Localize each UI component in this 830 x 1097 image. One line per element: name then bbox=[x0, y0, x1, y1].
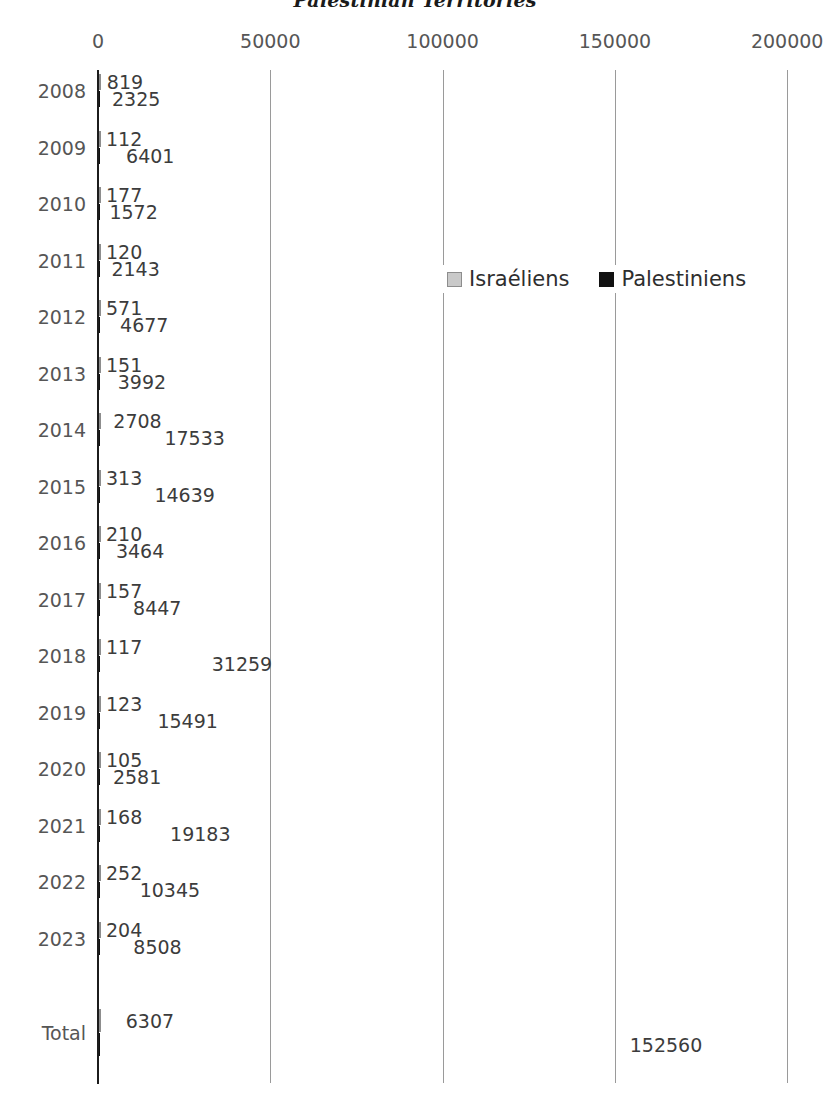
chart-row: Total6307152560 bbox=[0, 1009, 830, 1056]
bar-israeli: 117 bbox=[99, 639, 101, 655]
category-label: 2017 bbox=[0, 589, 86, 611]
bar-value-label: 8508 bbox=[128, 936, 181, 958]
chart-title: Palestinian Territories bbox=[0, 0, 830, 11]
bar-value-label: 19183 bbox=[165, 823, 230, 845]
bar-value-label: 15491 bbox=[152, 710, 217, 732]
chart-row: 2014270817533 bbox=[0, 413, 830, 446]
chart-row: 20201052581 bbox=[0, 752, 830, 785]
legend-label: Palestiniens bbox=[621, 267, 746, 291]
bar-value-label: 117 bbox=[101, 636, 142, 658]
chart-row: 20171578447 bbox=[0, 583, 830, 616]
chart-row: 202225210345 bbox=[0, 865, 830, 898]
bar-palestinian: 2143 bbox=[99, 261, 106, 277]
bar-israeli: 112 bbox=[99, 131, 101, 147]
bar-palestinian: 8447 bbox=[99, 600, 128, 616]
chart-row: 20088192325 bbox=[0, 74, 830, 107]
bar-palestinian: 15491 bbox=[99, 713, 152, 729]
category-label: 2013 bbox=[0, 363, 86, 385]
bar-israeli: 210 bbox=[99, 526, 101, 542]
bar-value-label: 10345 bbox=[135, 879, 200, 901]
bar-palestinian: 4677 bbox=[99, 317, 115, 333]
bar-israeli: 571 bbox=[99, 300, 101, 316]
bar-israeli: 157 bbox=[99, 583, 101, 599]
category-label: 2019 bbox=[0, 702, 86, 724]
bar-israeli: 252 bbox=[99, 865, 101, 881]
bar-rect bbox=[99, 430, 100, 446]
bar-palestinian: 3992 bbox=[99, 374, 113, 390]
bar-rect bbox=[99, 91, 100, 107]
bar-rect bbox=[99, 261, 100, 277]
bar-value-label: 8447 bbox=[128, 597, 181, 619]
chart-legend: IsraéliensPalestiniens bbox=[443, 265, 750, 293]
bar-rect bbox=[99, 1033, 100, 1056]
category-label: 2011 bbox=[0, 250, 86, 272]
bar-israeli: 177 bbox=[99, 187, 101, 203]
bar-israeli: 6307 bbox=[99, 1009, 121, 1032]
bar-rect bbox=[99, 600, 100, 616]
bar-rect bbox=[99, 487, 100, 503]
category-label: 2023 bbox=[0, 928, 86, 950]
bar-israeli: 313 bbox=[99, 470, 101, 486]
chart-row: 20232048508 bbox=[0, 922, 830, 955]
bar-rect bbox=[99, 413, 101, 429]
legend-swatch-palestinian-icon bbox=[599, 272, 614, 287]
bar-rect bbox=[99, 543, 100, 559]
chart-row: 202116819183 bbox=[0, 809, 830, 842]
chart-row: 201912315491 bbox=[0, 696, 830, 729]
bar-palestinian: 6401 bbox=[99, 148, 121, 164]
bar-palestinian: 152560 bbox=[99, 1033, 625, 1056]
bar-value-label: 1572 bbox=[104, 201, 157, 223]
bar-value-label: 4677 bbox=[115, 314, 168, 336]
bar-value-label: 168 bbox=[101, 806, 142, 828]
category-label: 2015 bbox=[0, 476, 86, 498]
x-tick-label: 0 bbox=[92, 30, 104, 52]
chart-row: 20131513992 bbox=[0, 357, 830, 390]
bar-israeli: 2708 bbox=[99, 413, 108, 429]
bar-value-label: 152560 bbox=[625, 1034, 703, 1056]
category-label: 2016 bbox=[0, 532, 86, 554]
bar-rect bbox=[99, 148, 100, 164]
bar-rect bbox=[99, 939, 100, 955]
legend-label: Israéliens bbox=[469, 267, 569, 291]
bar-value-label: 2143 bbox=[106, 258, 159, 280]
legend-item-palestinian[interactable]: Palestiniens bbox=[599, 267, 746, 291]
bar-palestinian: 31259 bbox=[99, 656, 207, 672]
bar-value-label: 2708 bbox=[108, 410, 161, 432]
bar-rect bbox=[99, 374, 100, 390]
bar-rect bbox=[99, 74, 101, 90]
bar-israeli: 204 bbox=[99, 922, 101, 938]
chart-row: 20091126401 bbox=[0, 131, 830, 164]
bar-israeli: 168 bbox=[99, 809, 101, 825]
bar-palestinian: 8508 bbox=[99, 939, 128, 955]
bar-palestinian: 19183 bbox=[99, 826, 165, 842]
chart-row: 20125714677 bbox=[0, 300, 830, 333]
bar-rect bbox=[99, 713, 100, 729]
legend-item-israeli[interactable]: Israéliens bbox=[447, 267, 569, 291]
bar-value-label: 3992 bbox=[113, 371, 166, 393]
bar-chart: Palestinian Territories 0500001000001500… bbox=[0, 0, 830, 1097]
bar-israeli: 105 bbox=[99, 752, 101, 768]
bar-value-label: 31259 bbox=[207, 653, 272, 675]
bar-rect bbox=[99, 769, 100, 785]
category-label: 2012 bbox=[0, 306, 86, 328]
bar-rect bbox=[99, 826, 100, 842]
bar-palestinian: 3464 bbox=[99, 543, 111, 559]
x-tick-label: 200000 bbox=[751, 30, 824, 52]
bar-rect bbox=[99, 317, 100, 333]
category-label: Total bbox=[0, 1022, 86, 1044]
bar-value-label: 313 bbox=[101, 467, 142, 489]
bar-palestinian: 2581 bbox=[99, 769, 108, 785]
bar-rect bbox=[99, 204, 100, 220]
chart-row: 201811731259 bbox=[0, 639, 830, 672]
bar-value-label: 2581 bbox=[108, 766, 161, 788]
bar-palestinian: 17533 bbox=[99, 430, 159, 446]
bar-israeli: 120 bbox=[99, 244, 101, 260]
bar-value-label: 123 bbox=[101, 693, 142, 715]
category-label: 2009 bbox=[0, 137, 86, 159]
category-label: 2008 bbox=[0, 80, 86, 102]
legend-swatch-israeli-icon bbox=[447, 272, 462, 287]
category-label: 2010 bbox=[0, 193, 86, 215]
bar-israeli: 151 bbox=[99, 357, 101, 373]
bar-palestinian: 10345 bbox=[99, 882, 135, 898]
chart-row: 20101771572 bbox=[0, 187, 830, 220]
